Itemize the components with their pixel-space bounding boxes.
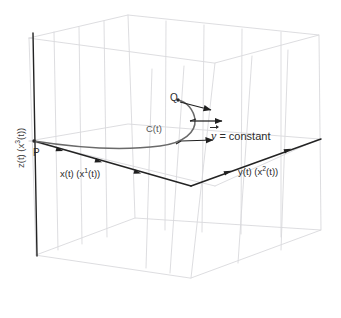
axis-lines [33,33,321,256]
box-grid-rib-4 [165,21,166,230]
point-label-q: Q [170,93,178,103]
vector-v-symbol: v [211,130,216,142]
box-grid-rib-2 [79,27,82,244]
box-grid-rib-1 [54,32,58,250]
point-label-p: P [33,148,40,158]
velocity-constant-label: v = constant [211,130,270,142]
axis-label-x: x(t) (x1(t)) [60,168,100,179]
box-top-face [29,15,319,63]
box-edge-vertical-back-right [319,35,321,230]
box-grid-rib-8 [146,69,152,268]
axis-label-z: z(t) (x3(t)) [15,128,26,168]
diagram-graphics [0,0,341,318]
diagram-canvas: z(t) (x3(t)) x(t) (x1(t)) y(t) (x2(t)) P… [0,0,341,318]
box-grid-rib-10 [238,56,252,263]
axis-label-y: y(t) (x2(t)) [238,166,278,177]
trajectory-curve-ct [34,100,195,148]
box-mid-plane-back [29,124,319,141]
velocity-vector-at-q [180,102,211,110]
box-bottom-face [36,218,321,278]
box-grid-rib-5 [202,25,204,232]
box-grid-rib-3 [104,21,107,237]
curve-label-ct: C(t) [146,124,162,134]
axis-y-line [191,139,321,186]
velocity-vector-lower [181,140,213,141]
vector-equation-text: = constant [219,130,270,142]
box-edge-vertical-back-left [128,15,135,218]
point-p-marker [32,139,35,142]
